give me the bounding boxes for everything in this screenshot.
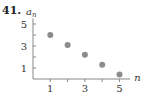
x-tick-label: 1 — [47, 83, 53, 94]
x-tick-label: 3 — [82, 83, 88, 94]
data-point — [65, 42, 71, 48]
y-axis-label: an — [26, 6, 37, 19]
scatter-chart: 135135nan — [0, 0, 147, 101]
data-point — [99, 62, 105, 68]
data-point — [117, 72, 123, 78]
data-point — [47, 32, 53, 38]
data-point — [82, 52, 88, 58]
x-axis-label: n — [134, 72, 140, 83]
y-tick-label: 5 — [21, 19, 27, 30]
y-tick-label: 1 — [21, 63, 27, 74]
x-tick-label: 5 — [116, 83, 122, 94]
y-tick-label: 3 — [21, 41, 27, 52]
